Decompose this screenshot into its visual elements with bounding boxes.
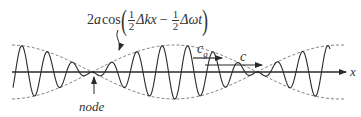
- formula-term-1: Δkx: [136, 12, 157, 28]
- fraction-2: 1 2: [172, 9, 180, 32]
- group-velocity-label: cg: [197, 42, 208, 59]
- upper-envelope: [12, 45, 345, 72]
- phase-velocity-label: c: [240, 50, 246, 64]
- formula-minus: −: [160, 12, 168, 28]
- formula-coeff: 2: [87, 12, 94, 28]
- close-paren: ): [202, 5, 208, 35]
- open-paren: (: [121, 5, 127, 35]
- node-label: node: [79, 100, 104, 113]
- formula-term-2: Δωt: [180, 12, 202, 28]
- formula-func: cos: [102, 12, 121, 28]
- envelope-formula: 2 a cos ( 1 2 Δkx − 1 2 Δωt ): [87, 5, 208, 35]
- fraction-1: 1 2: [128, 9, 136, 32]
- formula-amplitude: a: [94, 12, 101, 28]
- axis-label: x: [350, 65, 356, 78]
